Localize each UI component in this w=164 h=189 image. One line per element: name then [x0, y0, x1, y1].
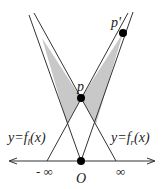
right-shaded-region	[81, 33, 123, 124]
label-f-right: y=fr(x)	[111, 131, 150, 147]
label-f-left-prefix: y=f	[8, 130, 28, 145]
label-p: p	[77, 80, 84, 94]
point-p	[77, 94, 85, 102]
point-p-prime	[119, 29, 127, 37]
label-f-right-prefix: y=f	[111, 130, 131, 145]
cone-diagram	[0, 0, 164, 189]
label-f-left-suffix: (x)	[30, 130, 46, 145]
label-neg-infinity: - ∞	[36, 165, 53, 178]
left-shaded-region	[42, 38, 81, 124]
label-p-prime: p'	[111, 16, 121, 30]
label-f-right-suffix: (x)	[134, 130, 150, 145]
label-f-left: y=fl(x)	[8, 131, 46, 147]
label-pos-infinity: ∞	[116, 165, 125, 178]
label-origin: O	[76, 172, 86, 186]
point-o	[77, 157, 85, 165]
